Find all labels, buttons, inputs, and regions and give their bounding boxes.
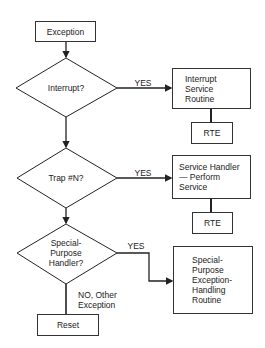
reset-label: Reset: [57, 320, 79, 330]
service-handler-label: Service Handler — Perform Service: [179, 162, 239, 192]
no-label-special: NO, Other Exception: [78, 290, 138, 310]
rte-box-1: RTE: [191, 122, 233, 144]
rte-box-2: RTE: [192, 212, 233, 234]
decision-trap-label: Trap #N?: [36, 173, 96, 183]
service-handler-box: Service Handler — Perform Service: [172, 155, 251, 199]
start-label: Exception: [47, 27, 84, 37]
rte-label-1: RTE: [204, 128, 221, 138]
special-routine-label: Special- Purpose Exception- Handling Rou…: [192, 255, 232, 305]
isr-label: Interrupt Service Routine: [185, 74, 217, 104]
start-exception-box: Exception: [35, 21, 96, 42]
arrow-special-yes: [117, 253, 172, 281]
decision-interrupt-label: Interrupt?: [36, 83, 96, 93]
yes-label-trap: YES: [128, 168, 158, 178]
interrupt-service-routine-box: Interrupt Service Routine: [172, 68, 251, 109]
special-purpose-routine-box: Special- Purpose Exception- Handling Rou…: [173, 246, 253, 314]
yes-label-special: YES: [121, 241, 151, 251]
decision-special-label: Special- Purpose Handler?: [36, 238, 96, 268]
rte-label-2: RTE: [204, 218, 221, 228]
yes-label-interrupt: YES: [128, 78, 158, 88]
reset-box: Reset: [37, 314, 99, 336]
